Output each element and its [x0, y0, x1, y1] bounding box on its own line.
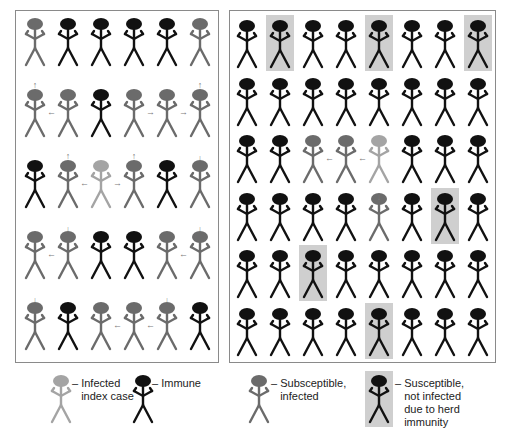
- arrow-left-icon: ←: [112, 321, 124, 330]
- infected-person-icon: [22, 17, 48, 67]
- immune-person-icon: [55, 17, 81, 67]
- infected-person-icon: [187, 159, 213, 209]
- immune-person-icon: [55, 301, 81, 351]
- immune-person-icon: [432, 249, 458, 299]
- immune-person-icon: [432, 77, 458, 127]
- arrow-up-icon: ↑: [29, 81, 41, 90]
- immune-person-icon: [88, 17, 114, 67]
- immune-person-icon: [333, 19, 359, 69]
- immune-person-icon: [22, 159, 48, 209]
- arrow-down-icon: ↓: [161, 296, 173, 305]
- arrow-down-icon: ↓: [373, 193, 385, 202]
- immune-person-icon: [234, 134, 260, 184]
- immune-person-icon: [121, 230, 147, 280]
- immune-person-icon: [465, 192, 491, 242]
- immune-person-icon: [366, 249, 392, 299]
- legend-shaded-person-icon: [366, 374, 392, 424]
- susceptible-protected-person-icon: [432, 192, 458, 242]
- immune-person-icon: [300, 307, 326, 357]
- immune-person-icon: [300, 77, 326, 127]
- legend-index-person-icon: [48, 374, 74, 424]
- immune-person-icon: [234, 77, 260, 127]
- infected-person-icon: [88, 301, 114, 351]
- infected-person-icon: [154, 301, 180, 351]
- index-person-icon: [366, 134, 392, 184]
- arrow-left-icon: ←: [178, 250, 190, 259]
- legend-label: – Immune: [152, 377, 201, 390]
- legend-label: – Susceptible, not infected due to herd …: [395, 377, 464, 429]
- arrow-left-icon: ←: [46, 250, 58, 259]
- immune-person-icon: [267, 307, 293, 357]
- index-person-icon: [88, 159, 114, 209]
- susceptible-protected-person-icon: [366, 307, 392, 357]
- immune-person-icon: [432, 307, 458, 357]
- immune-person-icon: [399, 77, 425, 127]
- immune-person-icon: [465, 134, 491, 184]
- immune-person-icon: [366, 77, 392, 127]
- immune-person-icon: [267, 77, 293, 127]
- immune-person-icon: [300, 192, 326, 242]
- left-panel-no-herd-immunity: ↑↑←→→↑↑↓←→↓↓←←↓↓←←: [15, 10, 219, 363]
- infected-person-icon: [22, 230, 48, 280]
- arrow-down-icon: ↓: [194, 225, 206, 234]
- immune-person-icon: [399, 249, 425, 299]
- infected-person-icon: [121, 301, 147, 351]
- immune-person-icon: [432, 19, 458, 69]
- susceptible-protected-person-icon: [300, 249, 326, 299]
- immune-person-icon: [121, 17, 147, 67]
- susceptible-protected-person-icon: [267, 19, 293, 69]
- legend-label: – Subsceptible, infected: [271, 377, 346, 403]
- arrow-down-icon: ↓: [194, 154, 206, 163]
- infected-person-icon: [154, 88, 180, 138]
- arrow-up-icon: ↑: [194, 81, 206, 90]
- arrow-up-icon: ↑: [128, 152, 140, 161]
- immune-person-icon: [333, 192, 359, 242]
- immune-person-icon: [399, 134, 425, 184]
- immune-person-icon: [234, 192, 260, 242]
- infected-person-icon: [55, 159, 81, 209]
- legend-infected-person-icon: [246, 374, 272, 424]
- arrow-left-icon: ←: [46, 108, 58, 117]
- immune-person-icon: [333, 77, 359, 127]
- infected-person-icon: [121, 159, 147, 209]
- arrow-left-icon: ←: [145, 321, 157, 330]
- immune-person-icon: [234, 19, 260, 69]
- arrow-right-icon: →: [112, 179, 124, 188]
- immune-person-icon: [432, 134, 458, 184]
- right-panel-herd-immunity: ←←↓: [229, 10, 496, 363]
- infected-person-icon: [187, 230, 213, 280]
- immune-person-icon: [465, 249, 491, 299]
- immune-person-icon: [154, 159, 180, 209]
- infected-person-icon: [300, 134, 326, 184]
- arrow-down-icon: ↓: [29, 296, 41, 305]
- infected-person-icon: [187, 17, 213, 67]
- immune-person-icon: [154, 17, 180, 67]
- immune-person-icon: [333, 249, 359, 299]
- immune-person-icon: [234, 249, 260, 299]
- susceptible-protected-person-icon: [366, 19, 392, 69]
- arrow-left-icon: ←: [79, 179, 91, 188]
- infected-person-icon: [55, 230, 81, 280]
- arrow-left-icon: ←: [357, 154, 369, 163]
- arrow-up-icon: ↑: [62, 152, 74, 161]
- immune-person-icon: [465, 77, 491, 127]
- infected-person-icon: [187, 88, 213, 138]
- immune-person-icon: [88, 230, 114, 280]
- infected-person-icon: [333, 134, 359, 184]
- arrow-down-icon: ↓: [62, 225, 74, 234]
- susceptible-protected-person-icon: [465, 19, 491, 69]
- immune-person-icon: [465, 307, 491, 357]
- immune-person-icon: [399, 307, 425, 357]
- arrow-right-icon: →: [178, 108, 190, 117]
- immune-person-icon: [399, 192, 425, 242]
- immune-person-icon: [267, 134, 293, 184]
- infected-person-icon: [154, 230, 180, 280]
- immune-person-icon: [234, 307, 260, 357]
- infected-person-icon: [22, 88, 48, 138]
- immune-person-icon: [187, 301, 213, 351]
- arrow-right-icon: →: [145, 108, 157, 117]
- infected-person-icon: [121, 88, 147, 138]
- infected-person-icon: [22, 301, 48, 351]
- legend-label: – Infected index case: [72, 377, 134, 403]
- immune-person-icon: [88, 88, 114, 138]
